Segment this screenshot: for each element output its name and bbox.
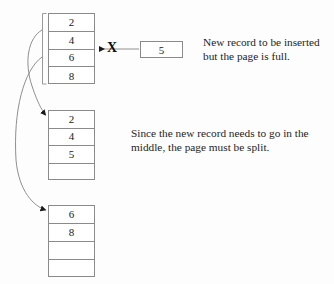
page-row: 8 [49,224,94,242]
page-row [49,242,94,260]
original-full-page: 2 4 6 8 [48,13,95,84]
insertion-blocked-x: X [107,41,117,55]
page-row: 8 [49,67,94,85]
page-row: 4 [49,129,94,147]
page-row: 2 [49,111,94,129]
source-page-bracket [43,14,47,85]
split-arrow-to-right-page [16,57,46,210]
right-split-page: 6 8 [48,205,95,277]
page-row: 4 [49,32,94,50]
page-row: 2 [49,14,94,32]
caption-page-split: Since the new record needs to go in the … [131,126,309,154]
page-row: 6 [49,50,94,68]
new-record-box: 5 [140,41,183,58]
left-split-page: 2 4 5 [48,110,95,180]
page-row: 5 [49,146,94,164]
split-arrow-to-left-page [28,30,46,115]
page-row [49,260,94,278]
page-row [49,164,94,182]
caption-page-full: New record to be inserted but the page i… [203,35,320,63]
page-row: 6 [49,206,94,224]
diagram-canvas: 2 4 6 8 X 5 New record to be inserted bu… [0,0,334,284]
